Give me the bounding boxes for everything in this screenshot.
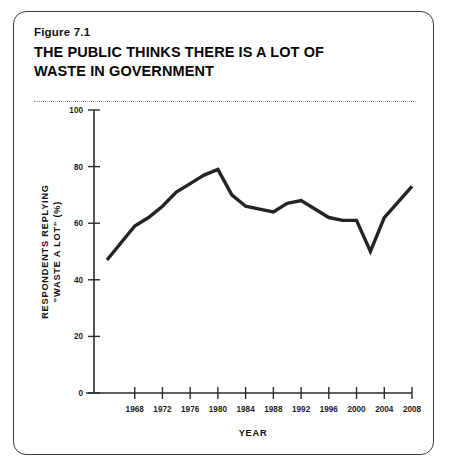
x-tick-label: 1992 xyxy=(292,405,311,414)
y-tick-label: 60 xyxy=(74,219,84,228)
line-chart-svg: 020406080100 196819721976198019841988199… xyxy=(14,12,435,456)
x-axis-label: YEAR xyxy=(239,428,268,438)
x-tick-label: 1968 xyxy=(126,405,145,414)
x-tick-label: 1980 xyxy=(209,405,228,414)
y-tick-label: 100 xyxy=(69,106,83,115)
data-series-group xyxy=(107,169,412,260)
x-tick-label: 2004 xyxy=(375,405,394,414)
y-tick-label: 0 xyxy=(78,389,83,398)
y-axis-label-line-2: "WASTE A LOT" (%) xyxy=(52,201,62,302)
y-tick-group: 020406080100 xyxy=(69,106,100,398)
y-axis-label-line-1: RESPONDENTS REPLYING xyxy=(40,184,50,319)
x-tick-label: 1988 xyxy=(264,405,283,414)
y-tick-label: 40 xyxy=(74,276,84,285)
x-tick-label: 1984 xyxy=(237,405,256,414)
x-tick-label: 1972 xyxy=(153,405,172,414)
x-tick-label: 1976 xyxy=(181,405,200,414)
data-series-line xyxy=(107,169,412,260)
chart-plot-area: 020406080100 196819721976198019841988199… xyxy=(14,12,435,456)
figure-card: Figure 7.1 THE PUBLIC THINKS THERE IS A … xyxy=(13,11,434,455)
x-tick-group: 1968197219761980198419881992199620002004… xyxy=(126,387,422,414)
x-tick-label: 2008 xyxy=(403,405,422,414)
x-tick-label: 1996 xyxy=(320,405,339,414)
x-tick-label: 2000 xyxy=(347,405,366,414)
y-tick-label: 20 xyxy=(74,332,84,341)
y-tick-label: 80 xyxy=(74,163,84,172)
